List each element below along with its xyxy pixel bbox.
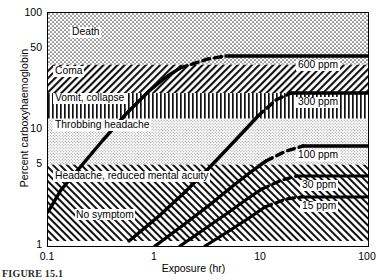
- plot-area: Death Coma Vomit, collapse Throbbing hea…: [47, 12, 369, 247]
- band-label-vomit-collapse: Vomit, collapse: [53, 93, 126, 104]
- y-axis-label: Percent carboxyhaemoglobin: [18, 33, 30, 203]
- y-tick-50: 50: [12, 41, 42, 53]
- y-tick-100: 100: [12, 6, 42, 18]
- figure-container: Percent carboxyhaemoglobin 100 50 10 5 1…: [0, 0, 387, 280]
- series-label-300-ppm: 300 ppm: [296, 97, 340, 108]
- series-label-30-ppm: 30 ppm: [300, 180, 338, 191]
- x-tick-100: 100: [347, 250, 387, 262]
- series-label-600-ppm: 600 ppm: [296, 60, 340, 71]
- band-label-coma: Coma: [53, 66, 84, 77]
- band-label-death: Death: [70, 27, 101, 38]
- series-label-100-ppm: 100 ppm: [296, 150, 340, 161]
- series-label-15-ppm: 15 ppm: [300, 201, 338, 212]
- band-label-throbbing-headache: Throbbing headache: [53, 120, 151, 131]
- x-tick-10: 10: [240, 250, 280, 262]
- y-tick-1: 1: [12, 238, 42, 250]
- x-tick-0.1: 0.1: [27, 250, 67, 262]
- band-label-no-symptom: No symptom: [75, 209, 135, 220]
- y-tick-10: 10: [12, 122, 42, 134]
- y-tick-5: 5: [12, 157, 42, 169]
- x-tick-1: 1: [134, 250, 174, 262]
- band-label-headache-reduced-acuity: Headache, reduced mental acuity: [53, 171, 210, 182]
- figure-caption: FIGURE 15.1: [2, 268, 63, 279]
